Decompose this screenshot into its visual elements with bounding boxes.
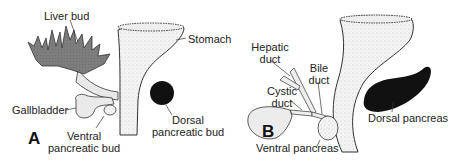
label-ventral-line2: pancreatic bud — [48, 142, 120, 154]
label-stomach: Stomach — [188, 33, 231, 45]
label-cystic-line2: duct — [264, 97, 300, 109]
label-ventral-pancreas: Ventral pancreas — [256, 142, 339, 154]
label-hepatic-duct: Hepatic duct — [250, 41, 290, 65]
label-dorsal-pancreatic-bud-a: Dorsal pancreatic bud — [152, 114, 224, 138]
label-liver-bud: Liver bud — [44, 10, 89, 22]
label-hepatic-line1: Hepatic — [250, 41, 290, 53]
panel-b-drawing — [248, 15, 431, 152]
label-dorsal-pancreas: Dorsal pancreas — [368, 112, 448, 124]
label-bile-line2: duct — [306, 74, 332, 86]
panel-letter-b: B — [262, 122, 274, 142]
dorsal-pancreas-b — [364, 67, 431, 112]
label-ventral-line1: Ventral — [48, 130, 120, 142]
label-cystic-duct: Cystic duct — [264, 85, 300, 109]
label-bile-line1: Bile — [306, 62, 332, 74]
ventral-pancreatic-bud-a — [104, 105, 116, 115]
panel-letter-a: A — [28, 129, 40, 149]
label-hepatic-line2: duct — [250, 53, 290, 65]
label-dorsal-line2: pancreatic bud — [152, 126, 224, 138]
label-ventral-pancreatic-bud-a: Ventral pancreatic bud — [48, 130, 120, 154]
cystic-duct — [290, 110, 312, 116]
label-gallbladder: Gallbladder — [12, 104, 68, 116]
label-bile-duct: Bile duct — [306, 62, 332, 86]
label-cystic-line1: Cystic — [264, 85, 300, 97]
dorsal-pancreatic-bud-a — [150, 81, 174, 105]
label-dorsal-line1: Dorsal — [152, 114, 224, 126]
stomach-opening-a — [118, 23, 184, 31]
stomach-opening-b — [340, 15, 412, 23]
ventral-pancreas-b — [318, 116, 338, 140]
liver-bud-shape — [28, 26, 110, 74]
